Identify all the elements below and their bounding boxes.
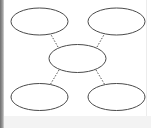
connector-center-top-right xyxy=(97,33,105,47)
mind-map-diagram xyxy=(0,0,151,128)
connector-center-bottom-right xyxy=(96,70,105,85)
node-top-right[interactable] xyxy=(88,8,145,35)
nodes xyxy=(11,8,145,111)
node-bottom-left[interactable] xyxy=(11,84,68,111)
connector-center-bottom-left xyxy=(50,70,59,85)
node-center[interactable] xyxy=(49,45,106,73)
node-top-left[interactable] xyxy=(11,8,68,35)
connector-center-top-left xyxy=(50,33,58,47)
node-bottom-right[interactable] xyxy=(88,84,145,111)
